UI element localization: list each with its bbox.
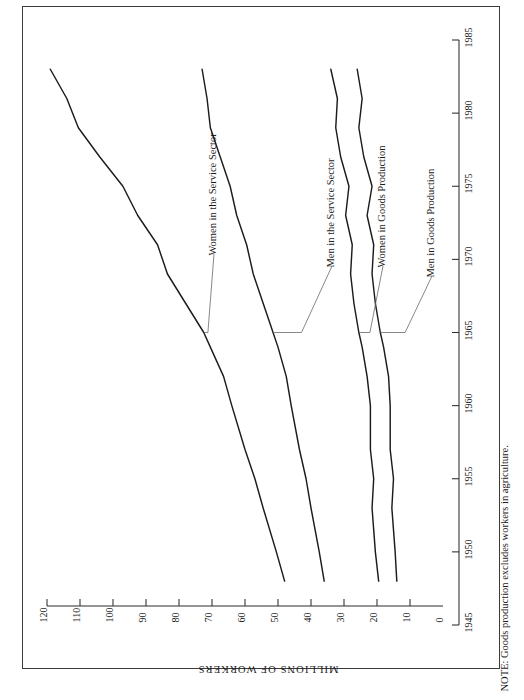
series-label-men-goods: Men in Goods Production xyxy=(425,169,436,278)
leader-line-women-goods xyxy=(359,266,383,333)
value-tick-label: 40 xyxy=(302,613,313,623)
value-tick-label: 10 xyxy=(401,613,412,623)
year-tick-label: 1960 xyxy=(463,393,474,413)
year-tick-label: 1985 xyxy=(463,28,474,48)
value-tick-label: 0 xyxy=(434,618,445,623)
chart-page: Number of Men and Women Workers by Secto… xyxy=(0,0,524,700)
leader-line-women-service xyxy=(204,254,214,333)
series-label-women-service: Women in the Service Sector xyxy=(207,133,218,255)
year-tick-label: 1955 xyxy=(463,466,474,486)
year-tick-label: 1975 xyxy=(463,174,474,194)
value-tick-label: 100 xyxy=(104,608,115,623)
year-tick-label: 1980 xyxy=(463,101,474,121)
year-tick-label: 1945 xyxy=(463,613,474,633)
value-tick-label: 50 xyxy=(269,613,280,623)
value-tick-label: 80 xyxy=(170,613,181,623)
value-tick-label: 30 xyxy=(335,613,346,623)
value-tick-label: 60 xyxy=(236,613,247,623)
value-tick-label: 110 xyxy=(71,608,82,623)
series-label-women-goods: Women in Goods Production xyxy=(376,146,387,268)
year-tick-label: 1965 xyxy=(463,320,474,340)
value-tick-label: 70 xyxy=(203,613,214,623)
series-group xyxy=(50,69,397,581)
series-line-women-service xyxy=(50,69,284,581)
series-line-men-service xyxy=(202,69,324,581)
year-tick-label: 1950 xyxy=(463,539,474,559)
leader-lines-group xyxy=(204,254,432,333)
year-tick-label: 1970 xyxy=(463,247,474,267)
series-label-men-service: Men in the Service Sector xyxy=(325,158,336,267)
leader-line-men-goods xyxy=(380,276,432,333)
chart-canvas xyxy=(0,0,524,700)
value-axis-title: MILLIONS OF WORKERS xyxy=(128,664,408,675)
value-tick-label: 120 xyxy=(38,608,49,623)
chart-note: NOTE: Goods production excludes workers … xyxy=(499,392,510,692)
value-tick-label: 90 xyxy=(137,613,148,623)
leader-line-men-service xyxy=(273,266,332,333)
value-tick-label: 20 xyxy=(368,613,379,623)
